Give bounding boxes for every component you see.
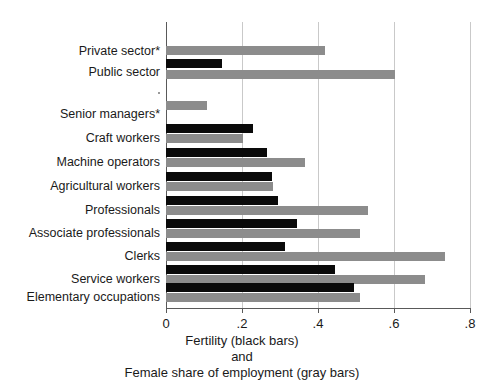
bar-female-share-professionals xyxy=(166,206,368,215)
bar-fertility-associate-professionals xyxy=(166,219,297,228)
bar-fertility-machine-operators xyxy=(166,148,267,157)
category-label-clerks: Clerks xyxy=(0,249,160,263)
gridline-0.6 xyxy=(394,22,395,308)
x-tick-label-0.6: .6 xyxy=(389,316,400,331)
category-label-craft-workers: Craft workers xyxy=(0,131,160,145)
bar-female-share-private-sector xyxy=(166,46,325,55)
bar-fertility-professionals xyxy=(166,196,278,205)
caption-line-fertility: Fertility (black bars) xyxy=(0,333,484,349)
bar-female-share-associate-professionals xyxy=(166,229,360,238)
bar-female-share-agricultural-workers xyxy=(166,182,273,191)
x-tick-label-0.2: .2 xyxy=(237,316,248,331)
bar-fertility-elementary-occupations xyxy=(166,283,354,292)
category-label-senior-managers: Senior managers* xyxy=(0,107,160,121)
x-tick-0.4 xyxy=(318,308,319,313)
x-axis-caption: Fertility (black bars) and Female share … xyxy=(0,333,484,381)
category-label-elementary-occupations: Elementary occupations xyxy=(0,290,160,304)
x-tick-0.2 xyxy=(242,308,243,313)
category-label-service-workers: Service workers xyxy=(0,272,160,286)
bar-fertility-agricultural-workers xyxy=(166,172,272,181)
gridline-0.8 xyxy=(470,22,471,308)
category-label-associate-professionals: Associate professionals xyxy=(0,226,160,240)
bar-female-share-clerks xyxy=(166,252,445,261)
x-tick-label-0: 0 xyxy=(162,316,169,331)
category-label-private-sector: Private sector* xyxy=(0,44,160,58)
category-label-machine-operators: Machine operators xyxy=(0,155,160,169)
x-tick-0.6 xyxy=(394,308,395,313)
bar-female-share-machine-operators xyxy=(166,158,305,167)
bar-fertility-service-workers xyxy=(166,265,335,274)
caption-line-femaleshare: Female share of employment (gray bars) xyxy=(0,365,484,381)
bar-female-share-public-sector xyxy=(166,70,395,79)
bar-female-share-senior-managers xyxy=(166,101,207,110)
bar-fertility-public-sector xyxy=(166,59,222,68)
x-tick-label-0.4: .4 xyxy=(313,316,324,331)
category-label-agricultural-workers: Agricultural workers xyxy=(0,179,160,193)
category-label-public-sector: Public sector xyxy=(0,65,160,79)
bar-fertility-craft-workers xyxy=(166,124,253,133)
x-tick-0 xyxy=(166,308,167,313)
caption-line-and: and xyxy=(0,349,484,365)
x-tick-label-0.8: .8 xyxy=(465,316,476,331)
x-tick-0.8 xyxy=(470,308,471,313)
bar-female-share-craft-workers xyxy=(166,134,243,143)
fertility-employment-bar-chart: 0 .2 .4 .6 .8 Private sector* Public sec… xyxy=(0,0,484,382)
bar-female-share-elementary-occupations xyxy=(166,293,360,302)
stray-mark xyxy=(158,92,160,94)
category-label-professionals: Professionals xyxy=(0,203,160,217)
bar-fertility-clerks xyxy=(166,242,285,251)
